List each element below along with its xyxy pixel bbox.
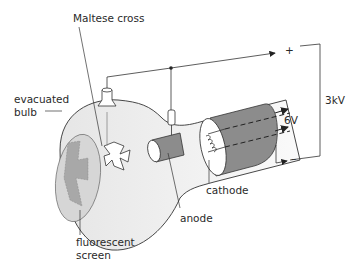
maltese-cross-tube-diagram: Maltese cross evacuated bulb fluorescent… [0,0,354,270]
label-screen: screen [76,249,111,261]
label-cathode: cathode [206,184,249,196]
anode-terminal [168,110,175,125]
label-evacuated: evacuated [14,93,69,105]
label-fluorescent: fluorescent [76,236,135,248]
label-3kv: 3kV [325,94,346,106]
cross-wire [107,68,171,88]
label-plus: + [285,44,294,56]
label-6v: 6V [284,114,299,126]
label-anode: anode [180,212,213,224]
label-bulb: bulb [14,106,37,118]
label-maltese-cross: Maltese cross [73,12,144,24]
hv-positive-wire [171,53,275,68]
label-minus: – [291,152,296,164]
